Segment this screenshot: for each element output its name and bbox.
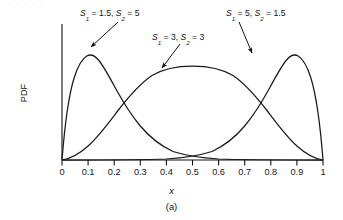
annotation-left-s1: 1.5 [99,8,111,18]
annotation-left-s2: 5 [135,8,140,18]
arrow-right [239,22,252,53]
annotation-label-left: S1 = 1.5, S2 = 5 [80,9,139,18]
x-axis-title: x [0,185,343,196]
x-tick-label-6: 0.6 [206,167,232,177]
x-tick-label-2: 0.2 [101,167,127,177]
figure-panel: . . . . . [0,0,343,220]
x-tick-label-0: 0 [49,167,75,177]
x-tick-label-10: 1 [310,167,336,177]
x-tick-label-4: 0.4 [153,167,179,177]
annotation-right-s1: 5 [245,8,250,18]
figure-sub-caption: (a) [0,201,343,212]
arrow-left [91,22,118,47]
annotation-label-right: S1 = 5, S2 = 1.5 [226,9,285,18]
axes [62,24,323,160]
annotation-middle-s2: 3 [200,32,205,42]
curve-beta-1.5-5 [62,55,323,160]
x-axis-ticks [62,160,323,166]
x-tick-label-5: 0.5 [180,167,206,177]
annotation-arrows [91,22,252,68]
curve-beta-3-3 [62,66,323,160]
arrow-middle [162,44,180,68]
annotation-middle-s1: 3 [171,32,176,42]
x-tick-label-8: 0.8 [258,167,284,177]
annotation-label-middle: S1 = 3, S2 = 3 [152,33,204,42]
x-tick-label-9: 0.9 [284,167,310,177]
y-axis-title: PDF [19,66,29,120]
annotation-right-s2: 1.5 [274,8,286,18]
x-tick-label-7: 0.7 [232,167,258,177]
x-tick-label-1: 0.1 [75,167,101,177]
curve-beta-5-1.5 [62,55,323,160]
x-tick-label-3: 0.3 [127,167,153,177]
